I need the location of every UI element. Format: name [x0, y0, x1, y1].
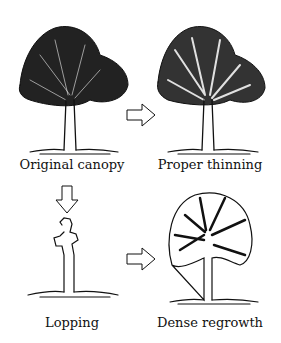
proper-thinning-tree-icon	[157, 27, 265, 154]
arrow-right-icon	[127, 104, 155, 126]
dense-regrowth-tree-icon	[169, 193, 258, 304]
panel-label-regrowth: Dense regrowth	[146, 315, 274, 330]
lopping-tree-icon	[28, 218, 118, 297]
panel-label-thinning: Proper thinning	[146, 157, 274, 172]
original-canopy-tree-icon	[19, 27, 128, 154]
arrow-right-icon	[127, 248, 155, 270]
arrow-down-icon	[56, 186, 78, 213]
panel-label-original: Original canopy	[8, 157, 136, 172]
panel-label-lopping: Lopping	[8, 315, 136, 330]
